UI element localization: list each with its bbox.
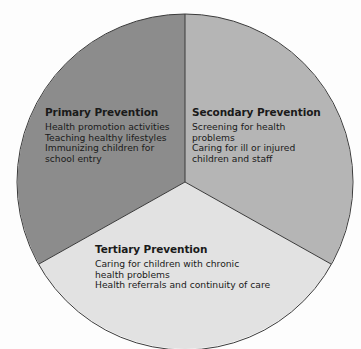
list-item: Immunizing children forschool entry [45,143,170,164]
list-item: Screening for healthproblems [192,122,321,143]
primary-prevention-block: Primary Prevention Health promotion acti… [45,106,170,164]
prevention-pie-diagram: Primary Prevention Health promotion acti… [0,0,361,349]
secondary-prevention-block: Secondary Prevention Screening for healt… [192,106,321,164]
tertiary-prevention-list: Caring for children with chronichealth p… [95,259,270,291]
pie-graphic [0,0,361,349]
list-item: Caring for ill or injuredchildren and st… [192,143,321,164]
primary-prevention-list: Health promotion activities Teaching hea… [45,122,170,164]
primary-prevention-title: Primary Prevention [45,106,170,118]
list-item: Health referrals and continuity of care [95,280,270,291]
tertiary-prevention-block: Tertiary Prevention Caring for children … [95,243,270,291]
list-item: Caring for children with chronichealth p… [95,259,270,280]
tertiary-prevention-title: Tertiary Prevention [95,243,270,255]
secondary-prevention-title: Secondary Prevention [192,106,321,118]
secondary-prevention-list: Screening for healthproblems Caring for … [192,122,321,164]
